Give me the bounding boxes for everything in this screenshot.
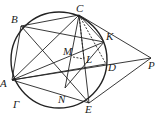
label-E: E [85,104,92,115]
diagram-svg [0,0,158,115]
label-gamma: Γ [13,99,19,110]
label-P: P [148,60,155,71]
label-K: K [106,31,113,42]
label-C: C [76,3,83,14]
label-A: A [0,78,7,89]
label-B: B [11,14,18,25]
geometry-diagram: B C K D E N A Γ M L P [0,0,158,115]
label-M: M [63,46,72,57]
label-L: L [86,54,92,65]
label-N: N [58,94,65,105]
label-D: D [108,62,116,73]
